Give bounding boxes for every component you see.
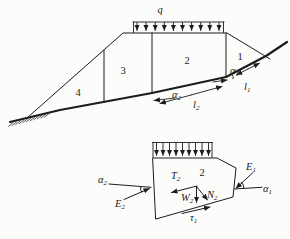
slope-stability-figure: q 1 2 3 4 α2 l2 α1 l1 xyxy=(0,0,290,239)
fbd-slice-label: 2 xyxy=(199,167,204,178)
slice-4-label: 4 xyxy=(75,87,81,98)
background xyxy=(0,0,290,239)
slice-2-label: 2 xyxy=(184,55,189,66)
slice-3-label: 3 xyxy=(120,65,125,76)
load-label: q xyxy=(157,4,162,15)
figure-canvas: q 1 2 3 4 α2 l2 α1 l1 xyxy=(0,0,290,239)
slice-1-label: 1 xyxy=(237,51,242,62)
